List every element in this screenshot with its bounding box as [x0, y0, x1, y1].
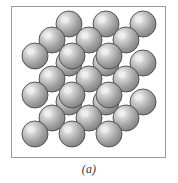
lattice-atom	[96, 121, 122, 147]
illustration-frame	[11, 6, 166, 158]
lattice-atom	[22, 82, 48, 108]
lattice-atom	[22, 121, 48, 147]
figure-caption: (a)	[0, 162, 178, 177]
lattice-atom	[96, 43, 122, 69]
figure-panel: (a)	[0, 0, 178, 183]
lattice-atom	[96, 82, 122, 108]
crystal-lattice-diagram	[12, 7, 165, 157]
lattice-atom	[22, 43, 48, 69]
atom-layer	[22, 11, 156, 147]
lattice-atom	[59, 82, 85, 108]
lattice-atom	[59, 121, 85, 147]
lattice-atom	[59, 43, 85, 69]
